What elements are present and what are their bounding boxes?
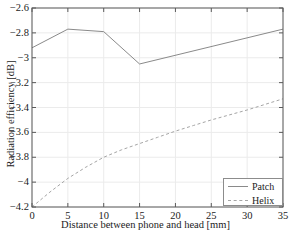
y-axis-title: Radiation efficiency [dB] (5, 60, 16, 167)
legend-item-patch: Patch (224, 180, 282, 193)
legend-item-helix: Helix (224, 194, 282, 207)
legend-label-patch: Patch (252, 182, 274, 192)
x-axis-title: Distance between phone and head [mm] (0, 219, 291, 230)
y-tick-label: −4 (18, 177, 29, 188)
chart-figure: −4.2−4−3.8−3.6−3.4−3.2−3−2.8−2.6 0510152… (0, 0, 291, 234)
y-tick-label: −3 (18, 53, 29, 64)
y-axis-title-wrapper: Radiation efficiency [dB] (0, 14, 14, 214)
y-tick-label: −2.6 (10, 3, 29, 14)
legend-line-sample-dashed (228, 200, 248, 202)
chart-legend: Patch Helix (223, 178, 283, 206)
legend-label-helix: Helix (252, 196, 274, 206)
legend-line-sample-solid (228, 186, 248, 188)
